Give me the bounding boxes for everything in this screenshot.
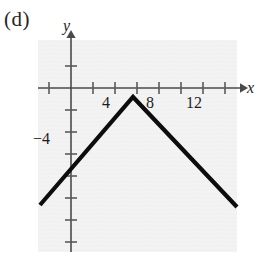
x-tick-label-4: 4: [102, 95, 110, 111]
x-axis-label: x: [247, 80, 254, 96]
y-axis-label: y: [63, 18, 70, 34]
x-tick-label-8: 8: [146, 95, 154, 111]
x-tick-label-12: 12: [186, 95, 202, 111]
y-tick-label-minus-4: −4: [33, 131, 50, 147]
figure-panel-d: (d): [0, 0, 265, 273]
data-curve-inverted-v: [40, 97, 237, 207]
